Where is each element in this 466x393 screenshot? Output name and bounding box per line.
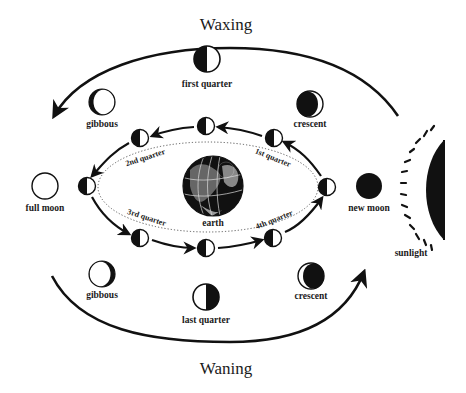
waxing-gibbous-moon-icon [89, 89, 115, 115]
orbit-moon-icon [266, 130, 283, 147]
orbit-label-4th-quarter: 4th quarter [254, 208, 294, 231]
new-moon-label: new moon [348, 203, 390, 213]
moon-phases-diagram: Waxing Waning 1st quarter 2nd quarter 3r… [0, 0, 466, 393]
waxing-crescent-moon-icon [297, 91, 323, 117]
new-moon-icon [356, 173, 382, 199]
waning-title: Waning [200, 359, 253, 378]
orbit-label-3rd-quarter: 3rd quarter [126, 207, 167, 228]
sun-half-disc-icon [401, 126, 445, 250]
waning-crescent-moon-icon [298, 263, 324, 289]
earth-label: earth [202, 218, 224, 228]
last-quarter-moon-icon [193, 284, 219, 310]
orbit-moon-icon [198, 118, 215, 135]
orbit-moon-icon [132, 230, 149, 247]
full-moon-icon [32, 173, 58, 199]
waxing-title: Waxing [200, 15, 253, 34]
first-quarter-label: first quarter [182, 79, 233, 89]
orbit-moon-icon [198, 240, 215, 257]
orbit-moon-icon [79, 178, 96, 195]
orbit-label-1st-quarter: 1st quarter [254, 146, 293, 169]
last-quarter-label: last quarter [182, 315, 231, 325]
waning-gibbous-moon-icon [89, 261, 115, 287]
earth-globe-icon [183, 156, 243, 216]
waxing-gibbous-label: gibbous [86, 119, 118, 129]
orbit-moon-icon [132, 130, 149, 147]
first-quarter-moon-icon [194, 46, 220, 72]
waning-gibbous-label: gibbous [86, 290, 118, 300]
waning-crescent-label: crescent [294, 291, 328, 301]
waxing-crescent-label: crescent [293, 119, 327, 129]
full-moon-label: full moon [26, 203, 66, 213]
orbit-moon-icon [265, 230, 282, 247]
orbit-moon-icon [319, 179, 336, 196]
sunlight-label: sunlight [395, 248, 429, 258]
